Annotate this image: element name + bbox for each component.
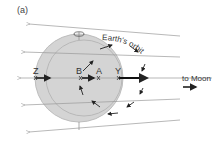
to-moon-label: to Moon	[182, 74, 211, 83]
point-label-b: B	[76, 66, 82, 76]
point-label-a: A	[96, 66, 102, 76]
point-label-z: Z	[33, 66, 39, 76]
point-label-y: Y	[115, 66, 121, 76]
earth-moon-diagram: Z B A Y Earth's orbit to Moon	[0, 0, 223, 141]
